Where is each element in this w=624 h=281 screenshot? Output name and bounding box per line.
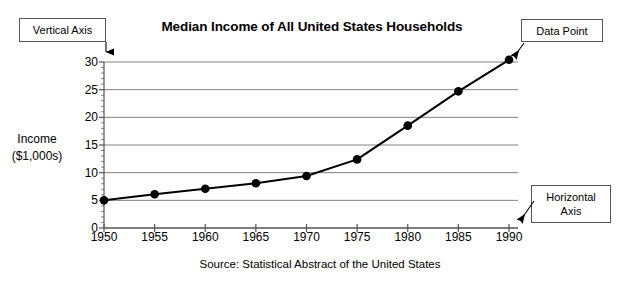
- source-note: Source: Statistical Abstract of the Unit…: [0, 258, 624, 270]
- data-markers: [100, 55, 514, 204]
- chart-figure: Median Income of All United States House…: [0, 0, 624, 281]
- data-point-marker[interactable]: [100, 196, 109, 205]
- data-point-marker[interactable]: [302, 172, 311, 181]
- plot-area: [0, 0, 624, 281]
- data-point-marker[interactable]: [454, 87, 463, 96]
- data-point-marker[interactable]: [403, 121, 412, 130]
- gridlines: [104, 62, 518, 228]
- data-point-marker[interactable]: [201, 184, 210, 193]
- data-point-marker[interactable]: [353, 155, 362, 164]
- data-point-marker[interactable]: [252, 179, 261, 188]
- leader-line-horizontal-axis: [520, 201, 534, 221]
- data-point-marker[interactable]: [505, 55, 514, 64]
- leader-line-data-point: [514, 43, 524, 57]
- data-point-marker[interactable]: [150, 190, 159, 199]
